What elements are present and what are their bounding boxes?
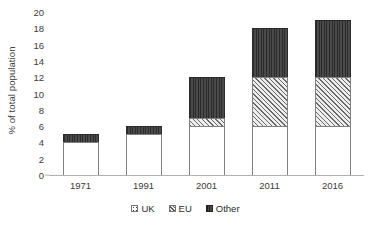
bar-group (63, 12, 99, 175)
x-axis-line (49, 175, 364, 176)
x-axis-tick-label: 1971 (70, 180, 91, 191)
stacked-bar[interactable] (189, 77, 225, 175)
bar-segment-other[interactable] (189, 77, 225, 118)
stacked-bar[interactable] (252, 28, 288, 175)
x-axis-tick-label: 2011 (259, 180, 279, 191)
legend-item-other[interactable]: Other (206, 204, 240, 214)
y-axis-tick-label: 16 (7, 39, 49, 50)
y-axis-ticks: 02468101214161820 (0, 0, 49, 227)
dark-pattern-swatch (206, 205, 213, 212)
x-axis-tick-label: 2001 (196, 180, 217, 191)
stacked-bar[interactable] (315, 20, 351, 175)
plot-area (49, 12, 364, 175)
bar-segment-eu[interactable] (315, 77, 351, 126)
legend-item-uk[interactable]: UK (131, 204, 154, 214)
y-axis-tick-label: 2 (7, 153, 49, 164)
bar-segment-uk[interactable] (252, 126, 288, 175)
y-axis-tick-label: 12 (7, 72, 49, 83)
bar-group (252, 12, 288, 175)
x-axis-tick-label: 2016 (322, 180, 343, 191)
bar-segment-eu[interactable] (252, 77, 288, 126)
bar-segment-uk[interactable] (126, 134, 162, 175)
hatched-pattern-swatch (169, 205, 176, 212)
chart-legend: UKEUOther (0, 204, 371, 214)
legend-item-label: EU (179, 204, 192, 214)
legend-item-eu[interactable]: EU (169, 204, 192, 214)
bar-segment-uk[interactable] (315, 126, 351, 175)
bar-group (189, 12, 225, 175)
y-axis-tick-label: 10 (7, 88, 49, 99)
bar-group (315, 12, 351, 175)
stacked-bar[interactable] (63, 134, 99, 175)
x-axis-labels: 19711991200120112016 (49, 180, 364, 196)
y-axis-tick-label: 4 (7, 137, 49, 148)
bar-segment-other[interactable] (315, 20, 351, 77)
y-axis-tick-label: 0 (7, 170, 49, 181)
bar-segment-other[interactable] (63, 134, 99, 142)
bar-segment-other[interactable] (252, 28, 288, 77)
x-axis-tick-label: 1991 (133, 180, 154, 191)
y-axis-tick-label: 6 (7, 121, 49, 132)
bar-segment-eu[interactable] (189, 118, 225, 126)
y-axis-tick-label: 8 (7, 104, 49, 115)
dotted-pattern-swatch (131, 205, 138, 212)
stacked-bar-chart: % of total population 02468101214161820 … (0, 0, 371, 227)
y-axis-tick-label: 14 (7, 55, 49, 66)
y-axis-tick-label: 20 (7, 7, 49, 18)
legend-item-label: UK (141, 204, 154, 214)
bar-group (126, 12, 162, 175)
legend-item-label: Other (216, 204, 240, 214)
bar-segment-uk[interactable] (189, 126, 225, 175)
bar-segment-other[interactable] (126, 126, 162, 134)
stacked-bar[interactable] (126, 126, 162, 175)
y-axis-tick-label: 18 (7, 23, 49, 34)
bar-segment-uk[interactable] (63, 142, 99, 175)
